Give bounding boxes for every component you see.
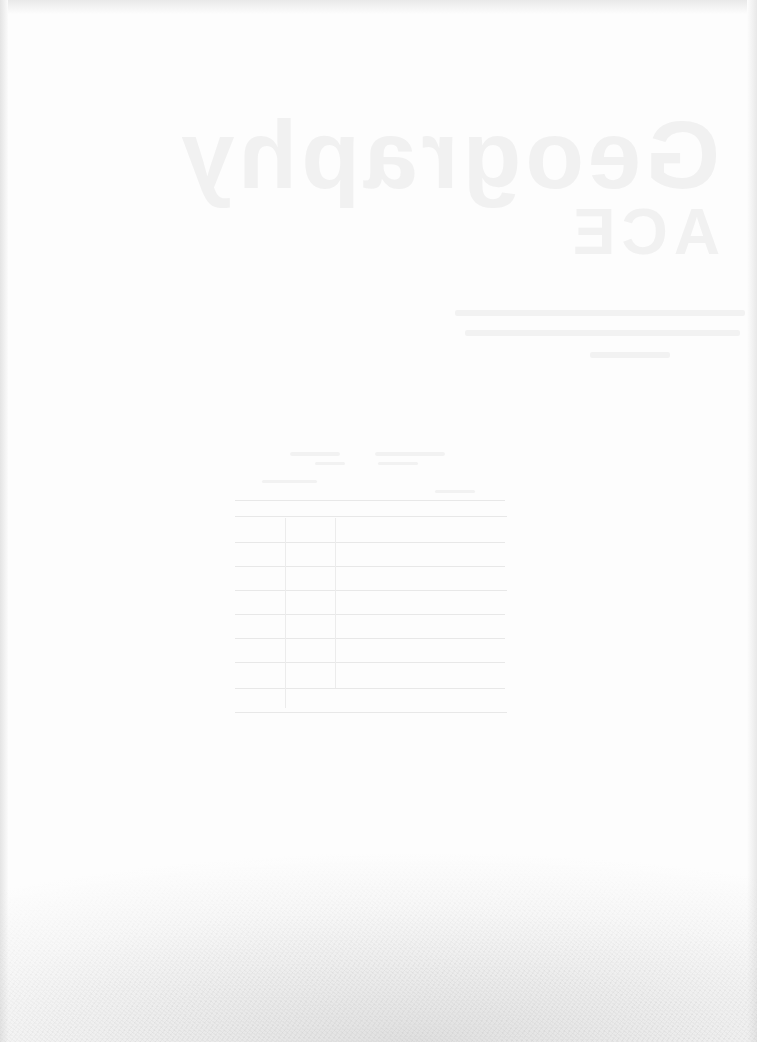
show-through-text-line xyxy=(590,352,670,358)
show-through-text-line xyxy=(465,330,740,336)
show-through-table-heading xyxy=(435,490,475,493)
scan-grain-shadow xyxy=(0,842,757,1042)
table-rule xyxy=(235,542,505,543)
table-rule xyxy=(235,662,505,663)
table-rule xyxy=(235,712,507,713)
show-through-text-line xyxy=(455,310,745,316)
page-top-edge-shadow xyxy=(0,0,757,14)
show-through-table-heading xyxy=(262,480,317,483)
table-rule xyxy=(235,590,507,591)
table-column-divider xyxy=(335,518,336,688)
table-rule xyxy=(235,614,505,615)
show-through-table-heading xyxy=(290,452,340,456)
show-through-table-heading xyxy=(375,452,445,456)
show-through-title-line-2: ACE xyxy=(80,195,720,269)
table-rule xyxy=(235,688,505,689)
table-column-divider xyxy=(285,518,286,708)
scanned-page: Geography ACE xyxy=(0,0,757,1042)
show-through-title-line-1: Geography xyxy=(80,100,720,210)
table-rule xyxy=(235,566,505,567)
table-rule xyxy=(235,516,507,517)
table-rule xyxy=(235,638,505,639)
show-through-table-heading xyxy=(315,462,345,465)
table-rule xyxy=(235,500,505,501)
show-through-table xyxy=(235,500,507,725)
show-through-table-heading xyxy=(378,462,418,465)
